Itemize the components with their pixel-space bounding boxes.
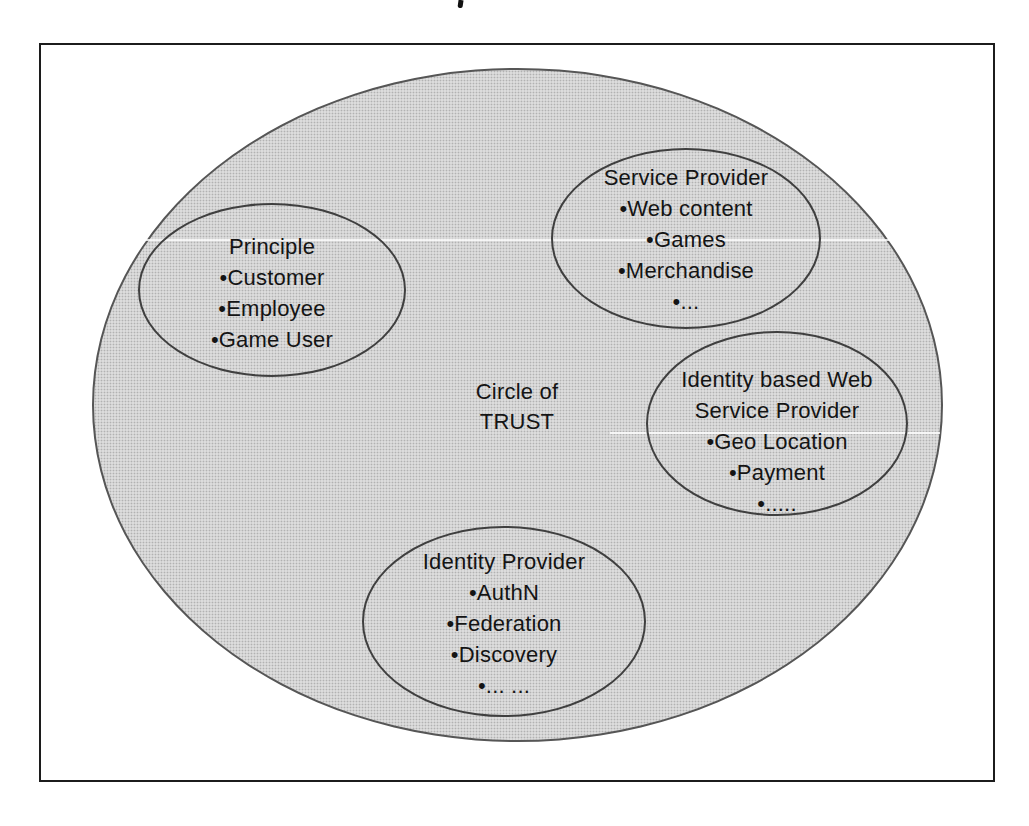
group-item: •Customer: [142, 262, 402, 293]
group-title: Principle: [142, 231, 402, 262]
diagram-canvas: Circle of TRUST Principle •Customer •Emp…: [0, 0, 1029, 826]
service-provider-text-block: Service Provider •Web content •Games •Me…: [556, 162, 816, 317]
group-item: •Discovery: [374, 639, 634, 670]
group-item: •... ...: [374, 670, 634, 701]
group-title: Service Provider: [556, 162, 816, 193]
group-item: •Game User: [142, 324, 402, 355]
group-title: Identity Provider: [374, 546, 634, 577]
center-label-line: Circle of: [417, 377, 617, 407]
group-item: •Games: [556, 224, 816, 255]
principle-text-block: Principle •Customer •Employee •Game User: [142, 231, 402, 355]
group-item: •Federation: [374, 608, 634, 639]
group-item: •AuthN: [374, 577, 634, 608]
group-title: Service Provider: [643, 395, 911, 426]
group-item: •Web content: [556, 193, 816, 224]
group-item: •Employee: [142, 293, 402, 324]
identity-based-web-service-provider-text-block: Identity based Web Service Provider •Geo…: [643, 364, 911, 519]
group-item: •Payment: [643, 457, 911, 488]
identity-provider-text-block: Identity Provider •AuthN •Federation •Di…: [374, 546, 634, 701]
group-title: Identity based Web: [643, 364, 911, 395]
group-item: •...: [556, 286, 816, 317]
group-item: •Merchandise: [556, 255, 816, 286]
group-item: •Geo Location: [643, 426, 911, 457]
center-label: Circle of TRUST: [417, 377, 617, 437]
group-item: •.....: [643, 488, 911, 519]
cropped-text-artifact: [457, 0, 463, 8]
center-label-line: TRUST: [417, 407, 617, 437]
